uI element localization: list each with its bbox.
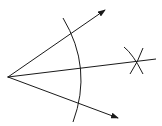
lower-ray (8, 77, 118, 118)
angle-bisector-diagram (0, 0, 162, 126)
vertex-point (7, 76, 9, 78)
